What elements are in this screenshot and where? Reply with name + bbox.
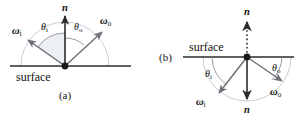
normal-label-bottom-b: n <box>244 104 250 115</box>
surface-label-b: surface <box>189 40 224 54</box>
theta-i-subscript-b: i <box>210 73 212 81</box>
panel-caption-a: (a) <box>59 89 72 102</box>
origin-point-a <box>62 63 69 70</box>
omega-i-subscript-b: i <box>204 100 206 109</box>
normal-label-a: n <box>62 2 68 13</box>
figure-canvas: n ωi ωo θi θo surface (a) <box>0 0 301 118</box>
omega-i-subscript-a: i <box>20 29 22 38</box>
brdf-geometry-figure: n ωi ωo θi θo surface (a) <box>0 0 301 118</box>
theta-o-subscript-a: o <box>79 26 83 34</box>
surface-label-a: surface <box>16 70 51 84</box>
normal-label-top-b: n <box>244 6 250 17</box>
omega-o-subscript-b: o <box>278 90 282 99</box>
panel-caption-b: (b) <box>159 51 172 64</box>
theta-i-subscript-a: i <box>46 26 48 34</box>
origin-point-b <box>244 54 251 61</box>
omega-o-subscript-a: o <box>108 19 112 28</box>
theta-o-subscript-b: o <box>277 67 281 75</box>
